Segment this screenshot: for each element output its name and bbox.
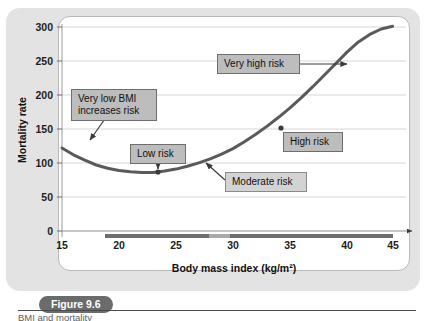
low-risk-point-marker [155,169,160,174]
x-axis-title: Body mass index (kg/m²) [172,262,296,274]
y-tick-200: 200 [35,89,53,101]
leader-moderate-risk [206,163,225,180]
annotation-very-low-bmi: Very low BMI increases risk [71,89,157,121]
x-tick-25: 25 [170,239,182,251]
x-tick-40: 40 [341,239,353,251]
x-tick-35: 35 [284,239,296,251]
risk-band-obese [230,234,393,238]
caption-divider [18,310,416,311]
y-tick-0: 0 [47,225,53,237]
y-axis-title: Mortality rate [16,97,28,163]
y-axis [57,24,62,237]
figure-container: 300 250 200 150 100 50 0 Mortality rate … [0,0,429,321]
y-tick-250: 250 [35,55,53,67]
annotation-very-high-risk: Very high risk [217,54,300,74]
x-tick-15: 15 [56,239,68,251]
figure-caption: BMI and mortality [18,312,416,321]
y-tick-150: 150 [35,123,53,135]
y-tick-100: 100 [35,157,53,169]
risk-band-overweight [209,234,230,238]
x-tick-20: 20 [113,239,125,251]
risk-band-bar [105,234,393,238]
y-tick-labels: 300 250 200 150 100 50 0 [35,21,53,237]
x-tick-30: 30 [227,239,239,251]
chart-canvas: 300 250 200 150 100 50 0 Mortality rate … [0,0,429,321]
y-tick-50: 50 [41,191,53,203]
annotation-high-risk: High risk [283,132,343,152]
risk-band-normal [105,234,209,238]
y-tick-300: 300 [35,21,53,33]
annotation-low-risk: Low risk [130,144,186,164]
x-tick-labels: 15 20 25 30 35 40 45 [56,239,399,251]
x-tick-45: 45 [387,239,399,251]
annotation-moderate-risk: Moderate risk [225,172,307,192]
